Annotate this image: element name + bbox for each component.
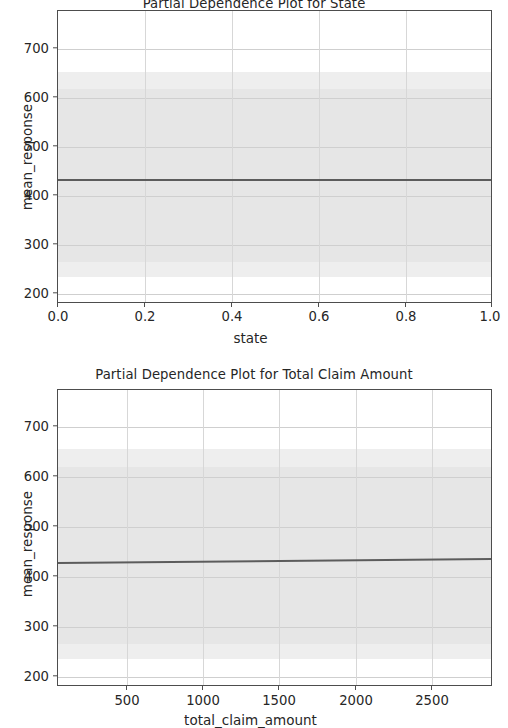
gridline-horizontal: [58, 294, 491, 295]
gridline-horizontal: [58, 577, 491, 578]
y-tick-label: 300: [7, 237, 49, 252]
x-tick-mark: [231, 303, 232, 307]
y-tick-label: 700: [7, 41, 49, 56]
pdp-line-state: [58, 179, 491, 181]
x-tick-label: 1500: [262, 693, 296, 708]
y-axis-label-total-claim-amount: mean_response: [19, 464, 35, 624]
x-axis-label-state: state: [33, 330, 468, 346]
gridline-vertical: [127, 390, 128, 685]
gridline-horizontal: [58, 49, 491, 50]
y-tick-label: 500: [7, 139, 49, 154]
x-tick-mark: [57, 303, 58, 307]
gridline-horizontal: [58, 147, 491, 148]
x-tick-label: 0.6: [309, 309, 330, 324]
y-tick-label: 700: [7, 419, 49, 434]
plot-title-total-claim-amount: Partial Dependence Plot for Total Claim …: [0, 367, 508, 382]
gridline-horizontal: [58, 627, 491, 628]
gridline-vertical: [319, 11, 320, 302]
x-tick-mark: [491, 303, 492, 307]
x-tick-mark: [431, 686, 432, 690]
gridline-horizontal: [58, 98, 491, 99]
x-axis-label-total-claim-amount: total_claim_amount: [33, 712, 468, 728]
gridline-vertical: [145, 11, 146, 302]
x-tick-label: 0.8: [396, 309, 417, 324]
gridline-horizontal: [58, 677, 491, 678]
gridline-vertical: [356, 390, 357, 685]
x-tick-mark: [355, 686, 356, 690]
x-tick-mark: [318, 303, 319, 307]
y-tick-label: 600: [7, 90, 49, 105]
x-tick-label: 1.0: [480, 309, 501, 324]
x-tick-label: 0.0: [48, 309, 69, 324]
x-tick-label: 0.4: [222, 309, 243, 324]
gridline-horizontal: [58, 427, 491, 428]
gridline-horizontal: [58, 245, 491, 246]
x-tick-label: 0.2: [135, 309, 156, 324]
x-tick-label: 500: [114, 693, 139, 708]
x-tick-mark: [126, 686, 127, 690]
x-tick-mark: [405, 303, 406, 307]
y-tick-label: 200: [7, 669, 49, 684]
x-tick-mark: [278, 686, 279, 690]
gridline-vertical: [232, 11, 233, 302]
plot-area-state: [57, 10, 492, 303]
gridline-horizontal: [58, 527, 491, 528]
x-tick-mark: [202, 686, 203, 690]
confidence-band-inner: [58, 89, 491, 262]
gridline-horizontal: [58, 477, 491, 478]
y-tick-label: 200: [7, 286, 49, 301]
plot-area-total-claim-amount: [57, 389, 492, 686]
y-tick-label: 400: [7, 569, 49, 584]
y-tick-label: 600: [7, 469, 49, 484]
x-tick-mark: [144, 303, 145, 307]
y-tick-label: 500: [7, 519, 49, 534]
x-tick-label: 1000: [186, 693, 220, 708]
gridline-vertical: [406, 11, 407, 302]
gridline-vertical: [279, 390, 280, 685]
confidence-band-inner: [58, 467, 491, 644]
gridline-vertical: [432, 390, 433, 685]
panel-total-claim-amount: Partial Dependence Plot for Total Claim …: [0, 363, 508, 727]
x-tick-label: 2000: [339, 693, 373, 708]
y-tick-label: 400: [7, 188, 49, 203]
panel-state: Partial Dependence Plot for State mean_r…: [0, 0, 508, 355]
gridline-horizontal: [58, 196, 491, 197]
x-tick-label: 2500: [415, 693, 449, 708]
y-tick-label: 300: [7, 619, 49, 634]
gridline-vertical: [203, 390, 204, 685]
